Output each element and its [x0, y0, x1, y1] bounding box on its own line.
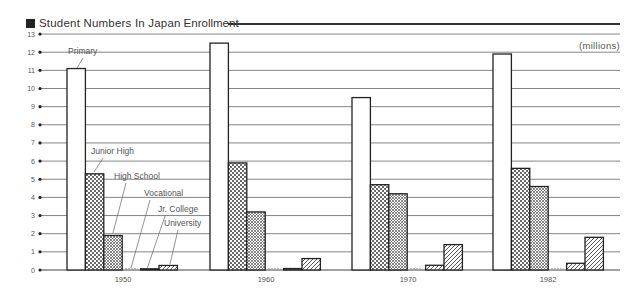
bar-jr-college-1970	[426, 265, 444, 270]
y-tick-label: 2	[31, 230, 35, 237]
x-label-1950: 1950	[115, 275, 132, 284]
y-tick-label: 3	[31, 212, 35, 219]
tick-dot	[38, 160, 41, 163]
bar-university-1970	[444, 245, 462, 270]
bar-junior-high-1970	[370, 185, 388, 270]
units-label: (millions)	[579, 40, 620, 51]
tick-dot	[38, 123, 41, 126]
bar-primary-1950	[67, 69, 85, 270]
tick-dot	[38, 196, 41, 199]
bar-primary-1970	[352, 98, 370, 270]
bar-university-1960	[302, 259, 320, 270]
bar-junior-high-1960	[228, 163, 246, 270]
y-tick-label: 8	[31, 121, 35, 128]
leader-line	[113, 183, 126, 233]
tick-dot	[38, 32, 41, 35]
y-tick-label: 0	[31, 267, 35, 274]
bar-high-school-1970	[389, 194, 407, 270]
bar-primary-1960	[210, 43, 228, 270]
tick-dot	[38, 141, 41, 144]
y-axis: 012345678910111213	[27, 31, 41, 274]
bar-jr-college-1950	[141, 269, 159, 270]
leader-line	[170, 230, 178, 264]
leader-line	[147, 216, 165, 269]
bar-university-1950	[159, 265, 177, 270]
x-label-1970: 1970	[400, 275, 417, 284]
bar-jr-college-1982	[567, 263, 585, 270]
tick-dot	[38, 232, 41, 235]
bar-jr-college-1960	[284, 269, 302, 270]
tick-dot	[38, 268, 41, 271]
bar-high-school-1982	[530, 187, 548, 270]
y-tick-label: 11	[28, 67, 35, 74]
legend-label-vocational: Vocational	[144, 188, 183, 198]
y-tick-label: 6	[31, 158, 35, 165]
bar-primary-1982	[493, 54, 511, 270]
tick-dot	[38, 214, 41, 217]
tick-dot	[38, 87, 41, 90]
tick-dot	[38, 250, 41, 253]
tick-dot	[38, 51, 41, 54]
y-tick-label: 1	[31, 248, 35, 255]
legend-label-junior-high: Junior High	[91, 146, 134, 156]
y-tick-label: 13	[27, 31, 35, 38]
legend-label-high-school: High School	[114, 171, 160, 181]
x-label-1960: 1960	[258, 275, 275, 284]
y-tick-label: 9	[31, 103, 35, 110]
bar-high-school-1960	[247, 212, 265, 270]
x-label-1982: 1982	[540, 275, 557, 284]
tick-dot	[38, 69, 41, 72]
legend-label-university: University	[164, 218, 201, 228]
bar-high-school-1950	[104, 236, 122, 270]
y-tick-label: 4	[31, 194, 35, 201]
leader-line	[77, 58, 83, 68]
y-tick-label: 7	[31, 139, 35, 146]
bars	[67, 43, 603, 270]
y-tick-label: 10	[27, 85, 35, 92]
leader-line	[94, 158, 103, 172]
y-tick-label: 12	[27, 49, 35, 56]
bar-junior-high-1982	[511, 168, 529, 270]
tick-dot	[38, 105, 41, 108]
bar-university-1982	[585, 237, 603, 270]
legend-label-jr-college: Jr. College	[158, 204, 198, 214]
tick-dot	[38, 178, 41, 181]
bar-junior-high-1950	[85, 174, 103, 270]
legend-label-primary: Primary	[68, 46, 97, 56]
y-tick-label: 5	[31, 176, 35, 183]
